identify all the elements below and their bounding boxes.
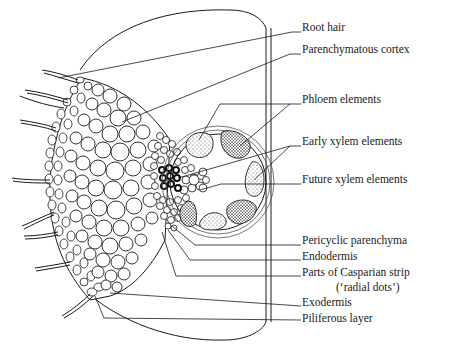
label-phloem-elements: Phloem elements [302, 93, 381, 105]
label-future-xylem-elements: Future xylem elements [302, 173, 407, 185]
label-root-hair: Root hair [302, 21, 345, 33]
label-parenchymatous-cortex: Parenchymatous cortex [302, 43, 410, 55]
root-section-diagram: Root hair Parenchymatous cortex Phloem e… [0, 0, 455, 353]
label-early-xylem-elements: Early xylem elements [302, 135, 402, 147]
label-endodermis: Endodermis [302, 250, 358, 262]
label-casparian-strip-sub: (‘radial dots’) [336, 281, 400, 293]
label-piliferous-layer: Piliferous layer [302, 312, 373, 324]
label-casparian-strip: Parts of Casparian strip [302, 266, 410, 278]
label-pericyclic-parenchyma: Pericyclic parenchyma [302, 234, 407, 246]
label-exodermis: Exodermis [302, 296, 352, 308]
